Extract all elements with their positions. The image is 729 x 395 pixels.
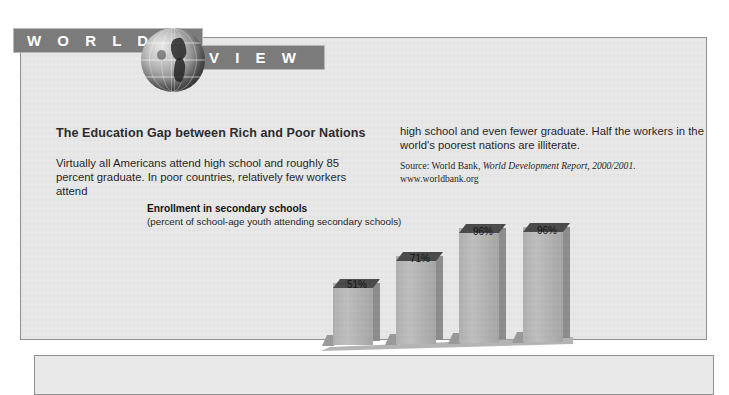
bar-side-face [373, 283, 380, 341]
banner-word-view: V I E W [209, 49, 302, 66]
globe-landmass [157, 50, 166, 60]
bar-value-label: 96% [537, 225, 557, 236]
bar-high-income-countries [459, 224, 499, 343]
chart-title: Enrollment in secondary schools [147, 203, 307, 214]
bar-value-label: 96% [473, 226, 493, 237]
source-citation: Source: World Bank, World Development Re… [400, 160, 720, 185]
bar-front-face [333, 283, 373, 345]
world-view-banner: W O R L D V I E W [13, 20, 325, 70]
source-report-title: World Development Report, 2000/2001. [483, 160, 636, 171]
enrollment-bar-chart: Enrollment in secondary schools (percent… [129, 203, 589, 371]
bar-value-label: 71% [410, 253, 430, 264]
chart-subtitle: (percent of school-age youth attending s… [147, 216, 401, 229]
article-paragraph-right: high school and even fewer graduate. Hal… [400, 124, 718, 152]
source-url: www.worldbank.org [400, 173, 479, 184]
source-prefix: Source: World Bank, [400, 160, 483, 171]
article-paragraph-left: Virtually all Americans attend high scho… [56, 156, 378, 199]
bar-front-face [396, 256, 436, 344]
globe-parallel [141, 59, 205, 61]
bar-front-face [459, 228, 499, 343]
next-feature-box [34, 355, 714, 395]
bar-front-face [523, 227, 563, 342]
banner-word-world: W O R L D [27, 32, 154, 49]
bar-side-face [436, 256, 443, 340]
bar-middle-income-countries [396, 252, 436, 344]
bar-united-states [523, 223, 563, 342]
bar-value-label: 51% [347, 279, 367, 290]
bar-side-face [563, 227, 570, 338]
bar-side-face [499, 228, 506, 339]
globe-icon [141, 28, 205, 92]
world-view-feature-box: The Education Gap between Rich and Poor … [20, 37, 707, 340]
page-title: The Education Gap between Rich and Poor … [56, 126, 376, 141]
